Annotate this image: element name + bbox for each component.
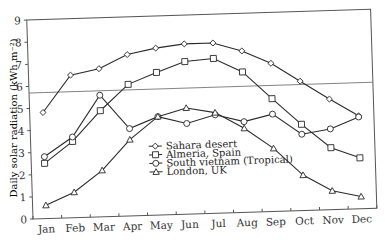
data-series — [38, 35, 365, 209]
square-legend-icon — [152, 152, 158, 158]
x-tick-label: Feb — [65, 221, 85, 234]
square-marker — [41, 160, 47, 166]
square-marker — [97, 108, 103, 114]
diamond-marker — [210, 40, 216, 46]
y-tick-label: 0 — [20, 213, 27, 225]
x-tick-label: Nov — [322, 213, 344, 226]
diamond-marker — [239, 48, 245, 54]
diamond-legend-icon — [152, 143, 158, 149]
diamond-marker — [153, 45, 159, 51]
diamond-marker — [181, 41, 187, 47]
x-tick-label: Jan — [37, 222, 56, 235]
square-marker — [239, 69, 245, 75]
y-tick-label: 9 — [14, 14, 21, 26]
square-marker — [182, 58, 188, 64]
circle-marker — [126, 125, 132, 131]
y-tick-label: 4 — [17, 125, 24, 137]
x-tick-label: Mar — [93, 220, 116, 233]
triangle-marker — [270, 145, 277, 151]
diamond-marker — [297, 78, 303, 84]
circle-legend-icon — [153, 160, 159, 166]
x-tick-label: Sep — [266, 215, 287, 228]
square-marker — [357, 155, 363, 161]
diamond-marker — [268, 60, 274, 66]
y-tick-label: 7 — [15, 58, 22, 70]
triangle-marker — [183, 105, 190, 111]
triangle-marker — [329, 187, 336, 193]
y-tick-label: 3 — [18, 147, 25, 159]
diamond-marker — [124, 51, 130, 57]
square-marker — [269, 96, 275, 102]
legend: Sahara desertAlmeria, SpainSouth vietnam… — [149, 136, 294, 177]
circle-marker — [241, 119, 247, 125]
diamond-marker — [326, 96, 332, 102]
y-tick-label: 8 — [15, 36, 22, 48]
square-marker — [153, 69, 159, 75]
x-tick-label: Dec — [351, 212, 372, 225]
y-tick-label: 5 — [17, 103, 24, 115]
x-tick-label: May — [150, 219, 173, 232]
circle-marker — [69, 134, 75, 140]
plot-frame — [27, 9, 377, 219]
x-tick-label: Jun — [180, 218, 199, 231]
circle-marker — [184, 120, 190, 126]
y-tick-label: 1 — [19, 191, 26, 203]
y-tick-label: 2 — [19, 169, 26, 181]
circle-marker — [356, 114, 362, 120]
square-marker — [125, 81, 131, 87]
circle-marker — [97, 92, 103, 98]
legend-label: London, UK — [166, 164, 227, 177]
square-marker — [298, 121, 304, 127]
circle-marker — [299, 131, 305, 137]
reference-line — [29, 82, 373, 93]
circle-marker — [41, 154, 47, 160]
x-tick-label: Apr — [122, 220, 144, 233]
legend-item: London, UK — [149, 164, 227, 177]
plot-area: 0123456789 JanFebMarAprMayJunJulAugSepOc… — [14, 3, 377, 235]
x-tick-label: Aug — [235, 216, 258, 229]
square-marker — [328, 145, 334, 151]
circle-marker — [327, 126, 333, 132]
triangle-marker — [241, 125, 248, 131]
circle-marker — [269, 111, 275, 117]
square-marker — [210, 55, 216, 61]
diamond-marker — [96, 66, 102, 72]
x-tick-label: Oct — [295, 214, 315, 227]
solar-radiation-chart: Daily solar radiation (kWh m⁻²) 01234567… — [0, 0, 385, 240]
x-tick-label: Jul — [210, 217, 226, 229]
triangle-marker — [43, 202, 50, 208]
y-tick-label: 6 — [16, 81, 23, 93]
